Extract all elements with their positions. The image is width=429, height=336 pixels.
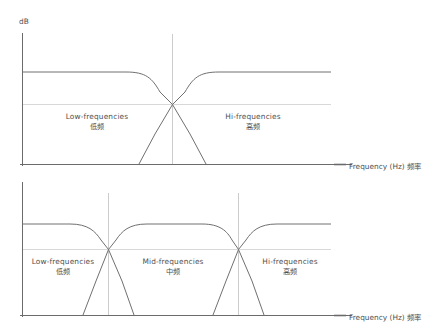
bottom-x-axis-label: Frequency (Hz) 频率 <box>349 311 421 322</box>
top-band-label-hi-cn: 高频 <box>246 122 260 132</box>
bottom-band-label-mid-cn: 中频 <box>166 267 180 277</box>
bottom-band-label-low-cn: 低频 <box>56 267 70 277</box>
y-axis-label: dB <box>19 17 29 26</box>
bottom-band-label-hi-cn: 高频 <box>283 267 297 277</box>
panel-two-way <box>20 33 352 166</box>
top-band-label-hi-en: Hi-frequencies <box>225 112 281 122</box>
top-x-axis-label: Frequency (Hz) 频率 <box>349 160 421 171</box>
top-band-label-low-en: Low-frequencies <box>66 112 129 122</box>
bottom-band-label-hi-en: Hi-frequencies <box>262 257 318 267</box>
crossover-diagram: dB Low-frequencies 低频 Hi-frequencies 高频 … <box>0 0 429 336</box>
panel-three-way <box>20 182 352 317</box>
bottom-band-label-low-en: Low-frequencies <box>32 257 95 267</box>
bottom-band-label-mid-en: Mid-frequencies <box>142 257 203 267</box>
top-band-label-low-cn: 低频 <box>90 122 104 132</box>
